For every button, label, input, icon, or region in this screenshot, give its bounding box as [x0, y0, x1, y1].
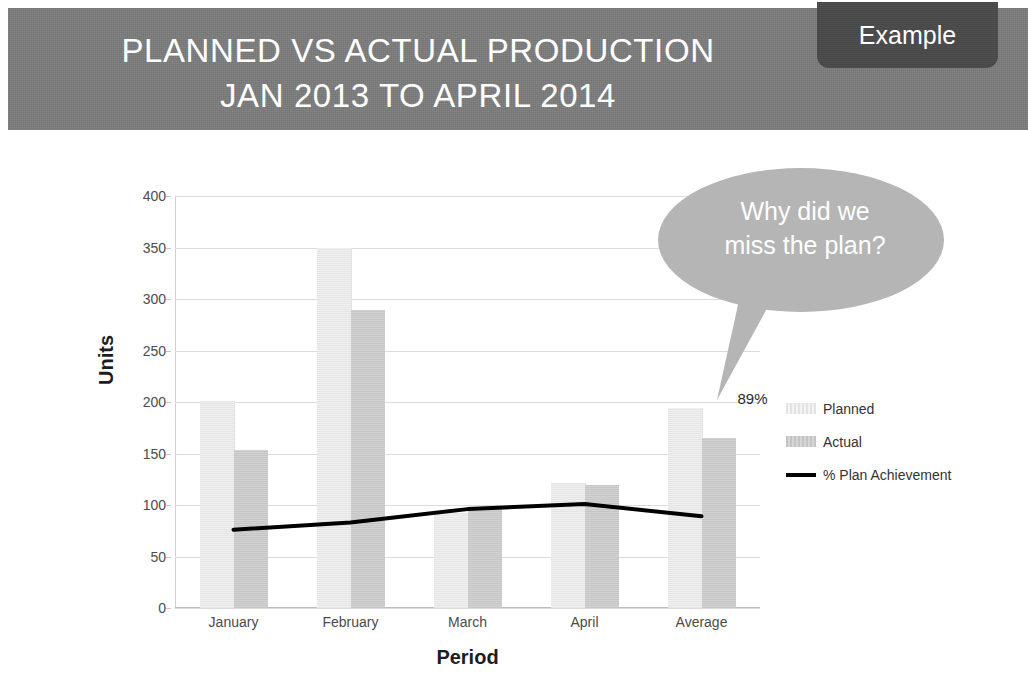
y-axis-tick-mark: [166, 299, 171, 300]
page-title: PLANNED VS ACTUAL PRODUCTION JAN 2013 TO…: [38, 28, 798, 118]
speech-bubble-shape: [655, 152, 955, 422]
y-axis-title: Units: [95, 335, 118, 385]
plan-achievement-line: [234, 504, 702, 530]
y-axis-tick-label: 100: [124, 497, 166, 513]
y-axis-tick-label: 0: [124, 600, 166, 616]
y-axis-tick-label: 200: [124, 394, 166, 410]
y-axis-tick-mark: [166, 505, 171, 506]
speech-bubble-annotation: Why did we miss the plan?: [655, 152, 955, 422]
x-axis-tick-label: Average: [676, 614, 728, 630]
y-axis-tick-label: 300: [124, 291, 166, 307]
y-axis-tick-mark: [166, 248, 171, 249]
y-axis-tick-mark: [166, 557, 171, 558]
x-axis-tick-label: March: [448, 614, 487, 630]
x-axis-tick-label: February: [322, 614, 378, 630]
x-axis-title: Period: [175, 646, 760, 669]
slide-canvas: PLANNED VS ACTUAL PRODUCTION JAN 2013 TO…: [0, 0, 1028, 673]
y-axis-tick-label: 50: [124, 549, 166, 565]
y-axis-tick-mark: [166, 196, 171, 197]
y-axis-tick-mark: [166, 351, 171, 352]
x-axis-tick-label: April: [570, 614, 598, 630]
legend-swatch-icon: [786, 436, 816, 447]
y-axis-tick-labels: 050100150200250300350400: [118, 196, 166, 608]
example-badge: Example: [817, 2, 998, 68]
example-badge-label: Example: [859, 21, 956, 50]
legend-item[interactable]: Actual: [786, 425, 1021, 458]
y-axis-tick-label: 250: [124, 343, 166, 359]
legend-item-label: Actual: [823, 434, 862, 450]
y-axis-tick-label: 400: [124, 188, 166, 204]
legend-line-icon: [786, 473, 816, 477]
y-axis-tick-label: 350: [124, 240, 166, 256]
y-axis-tick-mark: [166, 608, 171, 609]
gridline: [175, 608, 760, 609]
y-axis-tick-mark: [166, 402, 171, 403]
x-axis-tick-label: January: [209, 614, 259, 630]
x-axis-tick-labels: JanuaryFebruaryMarchAprilAverage: [175, 614, 760, 636]
y-axis-tick-mark: [166, 454, 171, 455]
legend-item-label: % Plan Achievement: [823, 467, 951, 483]
y-axis-tick-label: 150: [124, 446, 166, 462]
legend-item[interactable]: % Plan Achievement: [786, 458, 1021, 491]
